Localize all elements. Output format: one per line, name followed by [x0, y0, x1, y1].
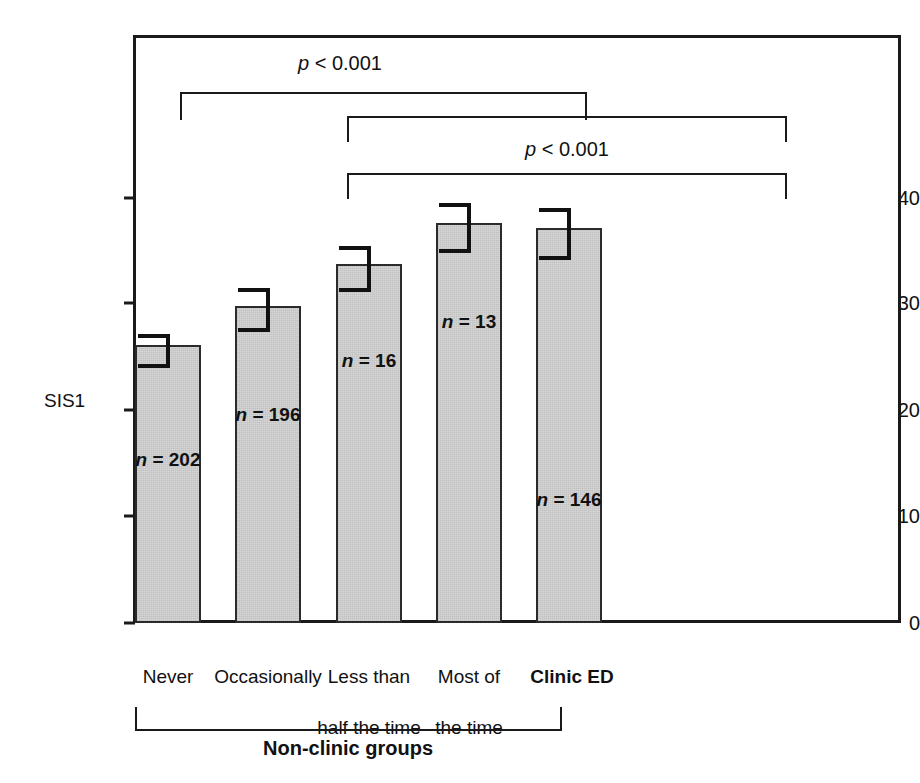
error-bar-cap-top-most-of-the-time	[439, 203, 469, 207]
p-value: < 0.001	[536, 138, 609, 160]
bar-clinic-ed[interactable]	[536, 228, 602, 623]
error-bar-stem-clinic-ed	[567, 208, 571, 260]
non-clinic-groups-label: Non-clinic groups	[263, 737, 433, 760]
error-bar-cap-top-occasionally	[238, 288, 268, 292]
bar-texture	[237, 308, 299, 621]
n-value: = 146	[548, 489, 601, 510]
bar-texture	[438, 225, 500, 621]
significance-label-2: p < 0.001	[525, 138, 609, 161]
bar-less-than-half-the-time[interactable]	[336, 264, 402, 623]
significance-bracket-3	[347, 173, 787, 199]
x-label-line1: Most of	[435, 664, 503, 690]
bar-occasionally[interactable]	[235, 306, 301, 623]
bar-texture	[137, 347, 199, 621]
p-symbol: p	[525, 138, 536, 160]
bar-never[interactable]	[135, 345, 201, 623]
error-bar-cap-top-less-than-half	[339, 246, 369, 250]
x-tick-label-occasionally: Occasionally	[214, 638, 322, 715]
p-value: < 0.001	[309, 52, 382, 74]
x-tick-label-never: Never	[143, 638, 194, 715]
error-bar-stem-less-than-half	[367, 246, 371, 292]
error-bar-stem-most-of-the-time	[467, 203, 471, 253]
bar-n-label-never: n = 202	[136, 449, 201, 471]
n-symbol: n	[537, 489, 549, 510]
bar-n-label-clinic-ed: n = 146	[537, 489, 602, 511]
significance-label-1: p < 0.001	[298, 52, 382, 75]
x-label-line1: Clinic ED	[530, 664, 613, 690]
x-label-line1: Occasionally	[214, 664, 322, 690]
x-tick-label-clinic-ed: Clinic ED	[530, 638, 613, 715]
error-bar-cap-bottom-most-of-the-time	[439, 249, 469, 253]
non-clinic-groups-bracket	[135, 707, 562, 731]
y-axis-title: SIS1	[44, 390, 85, 412]
n-value: = 13	[453, 311, 496, 332]
x-tick-label-most-of-the-time: Most of the time	[435, 638, 503, 766]
error-bar-cap-bottom-occasionally	[238, 328, 268, 332]
bar-most-of-the-time[interactable]	[436, 223, 502, 623]
n-symbol: n	[136, 449, 148, 470]
x-label-line1: Never	[143, 664, 194, 690]
error-bar-cap-bottom-less-than-half	[339, 288, 369, 292]
n-symbol: n	[236, 404, 248, 425]
n-symbol: n	[442, 311, 454, 332]
error-bar-stem-occasionally	[266, 288, 270, 332]
error-bar-cap-bottom-clinic-ed	[539, 256, 569, 260]
n-value: = 202	[147, 449, 200, 470]
x-label-line1: Less than	[317, 664, 421, 690]
error-bar-cap-top-never	[138, 334, 168, 338]
bar-texture	[338, 266, 400, 621]
error-bar-cap-bottom-never	[138, 364, 168, 368]
n-value: = 196	[247, 404, 300, 425]
p-symbol: p	[298, 52, 309, 74]
bar-chart-figure: 40 30 20 10 0 SIS1 n = 202 n = 196	[0, 0, 920, 783]
bar-texture	[538, 230, 600, 621]
bar-n-label-less-than-half-the-time: n = 16	[342, 350, 396, 372]
bar-n-label-occasionally: n = 196	[236, 404, 301, 426]
bar-n-label-most-of-the-time: n = 13	[442, 311, 496, 333]
n-symbol: n	[342, 350, 354, 371]
n-value: = 16	[353, 350, 396, 371]
error-bar-stem-never	[166, 334, 170, 368]
error-bar-cap-top-clinic-ed	[539, 208, 569, 212]
